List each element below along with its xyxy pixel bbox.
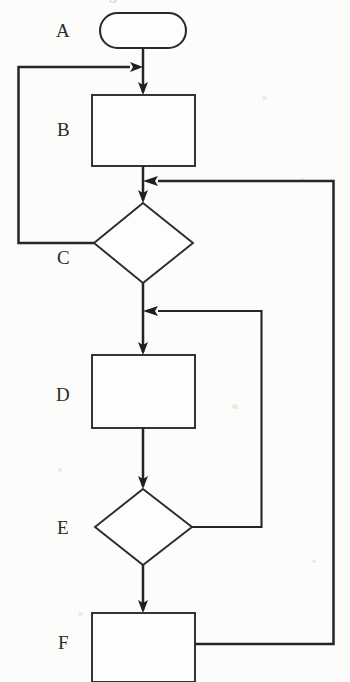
node-d-process[interactable]: [92, 355, 195, 428]
node-b-process[interactable]: [92, 95, 195, 166]
edge-c-left-feedback-arrowhead: [130, 62, 143, 72]
edge-f-right-feedback-arrowhead: [143, 176, 158, 186]
node-label-a: A: [56, 21, 70, 40]
node-label-b: B: [57, 120, 70, 139]
flowchart-canvas: [0, 0, 350, 682]
edge-e-right-feedback-arrowhead: [143, 306, 158, 316]
node-label-d: D: [56, 385, 70, 404]
node-label-c: C: [57, 248, 70, 267]
node-c-decision[interactable]: [94, 203, 193, 283]
node-e-decision[interactable]: [95, 489, 192, 565]
node-label-f: F: [58, 633, 69, 652]
node-f-process[interactable]: [92, 613, 195, 682]
node-label-e: E: [57, 518, 69, 537]
node-a-terminal[interactable]: [100, 13, 186, 48]
flowchart-page: flowchart fragment: [0, 0, 350, 682]
